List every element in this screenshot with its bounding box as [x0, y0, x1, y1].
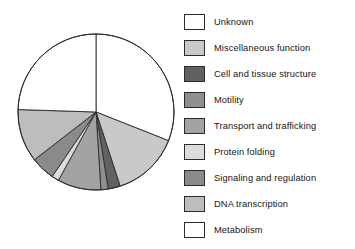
swatch-motility — [184, 92, 205, 108]
legend-item[interactable]: Signaling and regulation — [184, 165, 354, 191]
pie-slice-group — [18, 34, 174, 190]
legend-item[interactable]: Transport and trafficking — [184, 113, 354, 139]
pie-chart-svg — [14, 28, 182, 200]
swatch-signaling-and-regulation — [184, 170, 205, 186]
pie-slice[interactable] — [18, 34, 96, 112]
legend-item-label: Cell and tissue structure — [214, 69, 316, 80]
swatch-dna-transcription — [184, 196, 205, 212]
legend-item[interactable]: Protein folding — [184, 139, 354, 165]
legend-item-label: Transport and trafficking — [214, 121, 316, 132]
swatch-metabolism — [184, 222, 205, 238]
swatch-unknown — [184, 14, 205, 30]
legend-item-label: Miscellaneous function — [214, 43, 310, 54]
legend-item-label: Unknown — [214, 17, 253, 28]
legend-item-label: DNA transcription — [214, 199, 288, 210]
swatch-protein-folding — [184, 144, 205, 160]
legend-item[interactable]: DNA transcription — [184, 191, 354, 217]
pie-chart-figure: Unknown Miscellaneous function Cell and … — [0, 0, 355, 249]
swatch-cell-and-tissue-structure — [184, 66, 205, 82]
legend-item-label: Protein folding — [214, 147, 275, 158]
legend-item-label: Metabolism — [214, 225, 263, 236]
legend: Unknown Miscellaneous function Cell and … — [184, 9, 354, 243]
legend-item-label: Signaling and regulation — [214, 173, 316, 184]
swatch-transport-and-trafficking — [184, 118, 205, 134]
swatch-miscellaneous-function — [184, 40, 205, 56]
legend-item-label: Motility — [214, 95, 244, 106]
legend-item[interactable]: Motility — [184, 87, 354, 113]
legend-item[interactable]: Unknown — [184, 9, 354, 35]
pie-chart-plot-area — [14, 28, 182, 200]
legend-item[interactable]: Miscellaneous function — [184, 35, 354, 61]
legend-item[interactable]: Metabolism — [184, 217, 354, 243]
legend-item[interactable]: Cell and tissue structure — [184, 61, 354, 87]
